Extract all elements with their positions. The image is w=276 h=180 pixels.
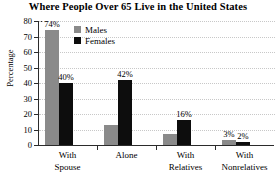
y-axis-tick-mark (34, 68, 38, 69)
chart-figure: Where People Over 65 Live in the United … (0, 0, 276, 180)
category-label-line: With (156, 150, 215, 162)
chart-title: Where People Over 65 Live in the United … (0, 1, 276, 12)
category-label: Alone (97, 150, 156, 162)
category-label-line: Nonrelatives (215, 162, 274, 174)
y-axis-tick-label: 30 (24, 94, 33, 104)
y-axis-tick-mark (34, 99, 38, 100)
bar-value-label: 42% (117, 69, 133, 79)
bar-value-label: 16% (176, 109, 192, 119)
category-label-line: Spouse (38, 162, 97, 174)
y-axis-tick-mark (34, 145, 38, 146)
bar: 16% (177, 120, 191, 145)
bar: 74% (45, 30, 59, 145)
bar-value-label: 74% (44, 19, 60, 29)
bar: 42% (118, 80, 132, 145)
category-label-line: Alone (97, 150, 156, 162)
legend-item: Females (74, 35, 115, 46)
y-axis-tick-mark (34, 52, 38, 53)
bar: 2% (236, 142, 250, 145)
bar-group: 16% (157, 21, 216, 145)
bar: 40% (59, 83, 73, 145)
bar (104, 125, 118, 145)
y-axis-tick-label: 60 (24, 47, 33, 57)
bar-value-label: 3% (223, 129, 234, 139)
legend-swatch (74, 26, 81, 33)
category-label-line: Relatives (156, 162, 215, 174)
category-label-line: With (38, 150, 97, 162)
bar-group: 3%2% (216, 21, 275, 145)
y-axis-tick-mark (34, 130, 38, 131)
y-axis-tick-label: 80 (24, 16, 33, 26)
legend-label: Males (85, 25, 107, 35)
y-axis-tick-label: 40 (24, 78, 33, 88)
category-label-line: With (215, 150, 274, 162)
legend-item: Males (74, 24, 115, 35)
bar-value-label: 2% (237, 131, 248, 141)
bar-value-label: 40% (58, 72, 74, 82)
y-axis-tick-mark (34, 21, 38, 22)
legend-label: Females (85, 36, 115, 46)
y-axis-tick-label: 70 (24, 32, 33, 42)
category-label: WithRelatives (156, 150, 215, 173)
chart-legend: MalesFemales (74, 24, 115, 46)
category-label: WithSpouse (38, 150, 97, 173)
bar (163, 134, 177, 145)
y-axis-title: Percentage (5, 37, 15, 99)
y-axis-tick-label: 0 (28, 140, 32, 150)
bar: 3% (222, 140, 236, 145)
y-axis-tick-label: 50 (24, 63, 33, 73)
y-axis-tick-mark (34, 114, 38, 115)
legend-swatch (74, 37, 81, 44)
y-axis-tick-label: 10 (24, 125, 33, 135)
category-label: WithNonrelatives (215, 150, 274, 173)
y-axis-tick-label: 20 (24, 109, 33, 119)
y-axis-tick-mark (34, 37, 38, 38)
y-axis-tick-mark (34, 83, 38, 84)
